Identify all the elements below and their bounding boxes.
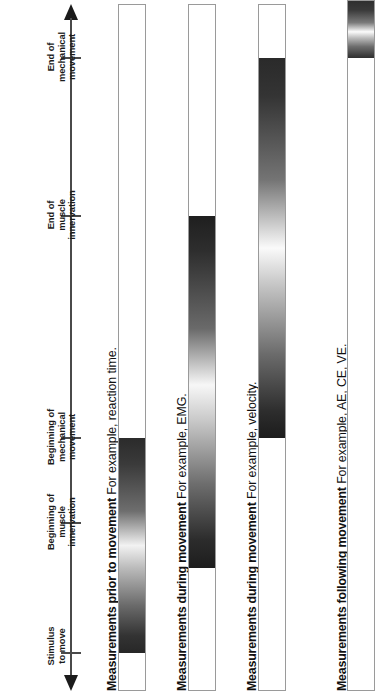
caption-normal-text: For example, reaction time. — [105, 347, 119, 498]
figure-canvas: End of mechanical movement End of muscle… — [0, 0, 386, 695]
bar-fill — [119, 438, 145, 653]
axis-line — [70, 18, 72, 677]
caption-measurements-during-movement-emg: Measurements during movement For example… — [175, 393, 189, 691]
caption-measurements-prior-to-movement: Measurements prior to movement For examp… — [105, 347, 119, 691]
axis-label-stimulus-to-move: Stimulus to move — [46, 601, 67, 691]
bar-fill — [189, 216, 215, 568]
caption-normal-text: For example, velocity. — [245, 382, 259, 503]
axis-label-end-of-mechanical-movement: End of mechanical movement — [46, 12, 78, 102]
caption-measurements-during-movement-velocity: Measurements during movement For example… — [245, 382, 259, 691]
bar-measurements-during-movement-emg — [188, 4, 216, 691]
axis-label-beginning-of-muscle-innervation: Beginning of muscle innervation — [46, 477, 78, 567]
caption-bold-text: Measurements prior to movement — [105, 498, 119, 691]
caption-bold-text: Measurements during movement — [245, 502, 259, 691]
bar-fill — [259, 58, 285, 438]
bar-measurements-following-movement — [347, 0, 375, 691]
axis-label-beginning-of-mechanical-movement: Beginning of mechanical movement — [46, 392, 78, 482]
bar-measurements-prior-to-movement — [118, 4, 146, 691]
axis-label-end-of-muscle-innervation: End of muscle innervation — [46, 170, 78, 260]
bar-measurements-during-movement-velocity — [258, 4, 286, 691]
bar-fill — [348, 1, 374, 58]
caption-normal-text: For example, EMG. — [175, 393, 189, 502]
caption-bold-text: Measurements during movement — [175, 502, 189, 691]
